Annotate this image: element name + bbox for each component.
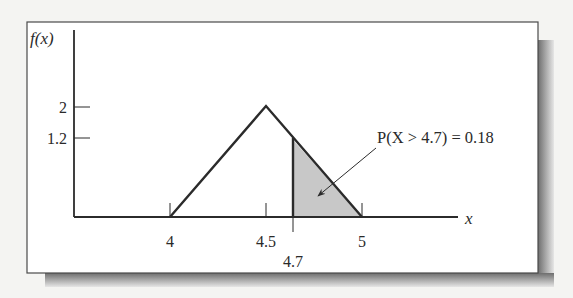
y-tick-label-2: 2 (59, 99, 67, 116)
probability-annotation: P(X > 4.7) = 0.18 (377, 128, 494, 147)
frame-shadow-right (538, 40, 554, 285)
figure: f(x) x 2 1.2 4 4.5 4.7 5 P(X > 4.7) = 0.… (0, 0, 573, 298)
y-tick-label-1-2: 1.2 (47, 130, 67, 147)
x-tick-label-5: 5 (358, 233, 366, 250)
x-tick-label-4-7: 4.7 (283, 253, 303, 270)
chart-frame (27, 22, 538, 273)
x-axis-label: x (464, 209, 473, 228)
frame-shadow-bottom (45, 273, 554, 287)
x-tick-label-4-5: 4.5 (256, 233, 276, 250)
x-tick-label-4: 4 (166, 233, 174, 250)
y-axis-label: f(x) (30, 29, 54, 48)
